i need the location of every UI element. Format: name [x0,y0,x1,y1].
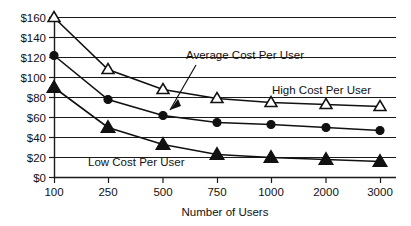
annotation-label-average: Average Cost Per User [186,49,304,61]
marker-average-100 [50,52,58,60]
chart-canvas: $160 $140 $120 $100 $80 $60 $40 $20 $0 1… [0,0,411,226]
marker-high-100 [48,12,60,22]
marker-average-3000 [376,127,384,135]
y-tick-label-0: $0 [33,172,46,184]
marker-average-500 [159,112,167,120]
marker-average-2000 [322,124,330,132]
y-tick-label-40: $40 [27,132,46,144]
x-tick-label-250: 250 [98,186,117,198]
annotation-leader-line-average [170,65,196,110]
x-tick-label-3000: 3000 [367,186,393,198]
marker-low-3000 [373,155,387,167]
marker-low-250 [101,121,115,133]
x-tick-label-500: 500 [153,186,172,198]
marker-average-1000 [267,121,275,129]
y-tick-label-160: $160 [20,12,46,24]
marker-low-2000 [319,153,333,165]
y-tick-label-140: $140 [20,32,46,44]
marker-average-250 [104,96,112,104]
y-tick-label-120: $120 [20,52,46,64]
cost-per-user-chart: $160 $140 $120 $100 $80 $60 $40 $20 $0 1… [0,0,411,226]
y-tick-label-20: $20 [27,152,46,164]
x-tick-label-1000: 1000 [258,186,284,198]
x-tick-label-750: 750 [207,186,226,198]
marker-high-2000 [320,99,332,109]
annotation-label-high: High Cost Per User [272,84,371,96]
y-tick-label-100: $100 [20,72,46,84]
x-tick-label-2000: 2000 [313,186,339,198]
marker-high-3000 [374,101,386,111]
y-axis: $160 $140 $120 $100 $80 $60 $40 $20 $0 [20,12,54,184]
x-tick-label-100: 100 [44,186,63,198]
annotation-average-cost: Average Cost Per User [170,49,304,110]
x-axis: 100 250 500 750 1000 2000 3000 Number of… [44,178,396,219]
x-axis-title: Number of Users [182,206,269,218]
annotation-label-low: Low Cost Per User [88,156,185,168]
y-tick-label-80: $80 [27,92,46,104]
marker-low-100 [47,81,61,93]
marker-average-750 [213,119,221,127]
y-tick-label-60: $60 [27,112,46,124]
